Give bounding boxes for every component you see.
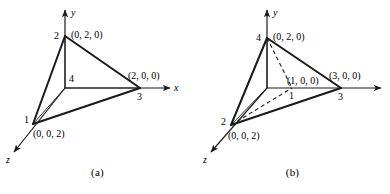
vertex-coord-1-a: (0, 0, 2) (33, 128, 65, 140)
vertex-coord-4-b: (0, 2, 0) (273, 31, 305, 43)
edge-3-2-b (231, 88, 341, 125)
vertex-number-3-b: 3 (338, 91, 343, 102)
vertex-number-4-a: 4 (69, 73, 74, 84)
vertex-coord-1-b: (1, 0, 0) (287, 75, 319, 87)
y-axis-label-a: y (70, 7, 76, 18)
figure-container: y x z 2 1 3 4 (0, 2, 0) (0, 0, 2) (2, 0,… (0, 0, 390, 194)
panel-a-diagram: y x z 2 1 3 4 (0, 2, 0) (0, 0, 2) (2, 0,… (0, 0, 195, 166)
z-axis-label-b: z (202, 154, 207, 165)
y-axis-label-b: y (272, 7, 278, 18)
vertex-number-1-a: 1 (24, 114, 29, 125)
panel-b-diagram: y z 4 2 3 1 (0, 2, 0) (0, 0, 2) (3, 0, 0… (195, 0, 390, 166)
vertex-number-3-a: 3 (137, 91, 142, 102)
z-axis-label-a: z (5, 154, 10, 165)
vertex-number-4-b: 4 (256, 32, 261, 43)
vertex-number-1-b: 1 (289, 90, 294, 101)
vertex-number-2-b: 2 (221, 116, 226, 127)
x-axis-label-a: x (173, 82, 179, 93)
panel-a: y x z 2 1 3 4 (0, 2, 0) (0, 0, 2) (2, 0,… (0, 0, 195, 194)
z-axis-line-a (14, 88, 65, 152)
panel-b-caption: (b) (195, 166, 390, 178)
vertex-coord-2-b: (0, 0, 2) (228, 130, 260, 142)
vertex-number-2-a: 2 (54, 30, 59, 41)
panel-b: y z 4 2 3 1 (0, 2, 0) (0, 0, 2) (3, 0, 0… (195, 0, 390, 194)
vertex-coord-3-a: (2, 0, 0) (128, 70, 160, 82)
vertex-coord-3-b: (3, 0, 0) (329, 70, 361, 82)
vertex-coord-2-a: (0, 2, 0) (71, 29, 103, 41)
panel-a-caption: (a) (0, 166, 195, 178)
edge-1-2-a (33, 36, 65, 124)
edge-2-4-b (231, 38, 267, 125)
